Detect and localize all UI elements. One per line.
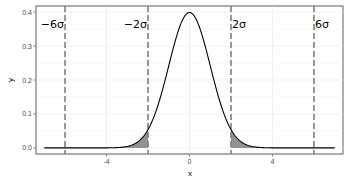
reference-label: 6σ (315, 18, 329, 31)
reference-label: −6σ (41, 18, 64, 31)
x-tick-label: 0 (188, 158, 192, 165)
normal-density-chart: −6σ−2σ2σ6σ 0.00.10.20.30.4 -404 x y (0, 0, 353, 187)
x-tick-label: 4 (271, 158, 275, 165)
y-tick-label: 0.3 (22, 43, 32, 50)
y-tick-label: 0.4 (22, 9, 32, 16)
y-tick-label: 0.0 (22, 144, 32, 151)
y-axis-title: y (6, 78, 15, 82)
y-tick-label: 0.1 (22, 110, 32, 117)
y-tick-label: 0.2 (22, 77, 32, 84)
x-axis-title: x (188, 169, 192, 178)
reference-label: 2σ (232, 18, 246, 31)
y-axis: 0.00.10.20.30.4 (22, 9, 36, 152)
reference-label: −2σ (124, 18, 147, 31)
x-axis: -404 (103, 154, 274, 165)
x-tick-label: -4 (103, 158, 109, 165)
